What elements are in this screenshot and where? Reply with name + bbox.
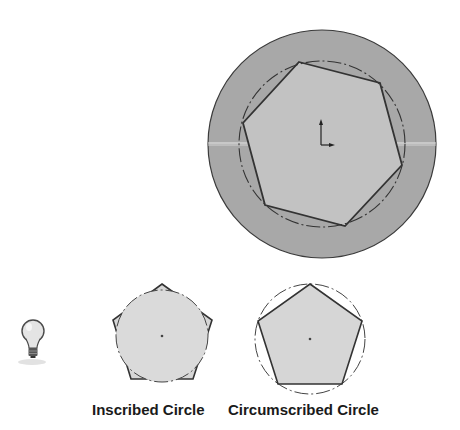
inscribed-circle-figure — [113, 284, 212, 382]
circumscribed-circle-label: Circumscribed Circle — [228, 401, 379, 418]
center-point — [309, 338, 312, 341]
inscribed-circle-label: Inscribed Circle — [92, 401, 205, 418]
circumscribed-circle-figure — [255, 284, 365, 394]
construction-disc-figure — [208, 30, 436, 258]
center-point — [161, 335, 164, 338]
diagram-canvas — [0, 0, 460, 430]
lightbulb-icon — [18, 320, 46, 365]
